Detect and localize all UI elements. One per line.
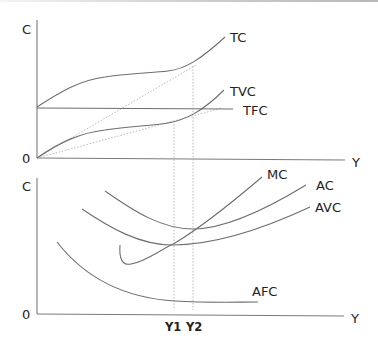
bottom-x-axis <box>37 314 344 316</box>
afc-curve <box>57 242 258 302</box>
top-y-axis-label: C <box>22 22 31 37</box>
tc-curve <box>37 37 225 107</box>
top-x-axis-label: Y <box>351 155 360 170</box>
tc-label: TC <box>229 30 246 45</box>
y2-marker-label: Y2 <box>185 320 202 334</box>
afc-label: AFC <box>252 284 277 299</box>
y1-marker-label: Y1 <box>164 320 181 334</box>
mc-label: MC <box>267 167 287 182</box>
top-panel: C 0 Y TC TVC TFC <box>22 20 360 310</box>
top-x-axis <box>37 158 345 160</box>
tvc-label: TVC <box>229 84 256 99</box>
tfc-label: TFC <box>242 103 268 118</box>
bottom-x-axis-label: Y <box>350 311 359 326</box>
cost-curves-diagram: C 0 Y TC TVC TFC C 0 Y MC AC AVC AFC Y1 … <box>0 0 378 350</box>
mc-curve <box>120 177 262 264</box>
ray-to-tvc <box>37 108 222 158</box>
bottom-y-axis-label: C <box>22 179 31 194</box>
avc-curve <box>82 207 310 245</box>
tvc-curve <box>37 90 224 158</box>
bottom-origin-label: 0 <box>22 307 30 322</box>
ac-label: AC <box>316 178 334 193</box>
avc-label: AVC <box>315 200 341 215</box>
top-origin-label: 0 <box>22 151 30 166</box>
bottom-panel: C 0 Y MC AC AVC AFC Y1 Y2 <box>22 167 359 334</box>
